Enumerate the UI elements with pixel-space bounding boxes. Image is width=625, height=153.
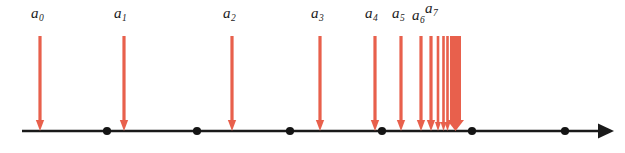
- label-a7-base: a: [425, 0, 433, 16]
- sequence-number-line-figure: a0 a1 a2 a3 a4 a5 a6 a7: [0, 0, 625, 153]
- arrow-head-icon: [435, 122, 441, 131]
- sequence-arrow-a7: [427, 36, 435, 131]
- label-a5: a5: [392, 6, 404, 21]
- label-a2-sub: 2: [231, 13, 236, 23]
- arrow-head-icon: [316, 120, 324, 131]
- label-a1-base: a: [114, 5, 122, 21]
- sequence-arrow-a6: [417, 36, 425, 131]
- axis-tick-dot: [468, 127, 476, 135]
- accumulation-block: [447, 36, 464, 131]
- label-a6: a6: [412, 8, 424, 23]
- label-a7: a7: [425, 1, 437, 16]
- label-a3: a3: [311, 6, 323, 21]
- label-a2-base: a: [223, 5, 231, 21]
- sequence-arrow-a3: [316, 36, 324, 131]
- arrow-head-icon: [397, 120, 405, 131]
- sequence-arrow-unlabeled-2: [445, 36, 451, 131]
- axis-tick-dot: [561, 127, 569, 135]
- axis-tick-dot: [378, 127, 386, 135]
- arrow-head-icon: [427, 120, 435, 131]
- axis-tick-dot: [103, 127, 111, 135]
- label-a7-sub: 7: [433, 8, 438, 18]
- axis-tick-dot: [286, 127, 294, 135]
- sequence-arrow-a1: [120, 36, 128, 131]
- label-a1: a1: [114, 6, 126, 21]
- sequence-arrow-unlabeled-0: [435, 36, 441, 131]
- label-a3-base: a: [311, 5, 319, 21]
- arrow-head-icon: [120, 120, 128, 131]
- axis-arrowhead-icon: [598, 124, 614, 139]
- arrow-head-icon: [228, 120, 236, 131]
- arrow-head-icon: [371, 120, 379, 131]
- arrow-head-icon: [417, 120, 425, 131]
- label-a1-sub: 1: [122, 13, 127, 23]
- label-a6-sub: 6: [420, 15, 425, 25]
- sequence-arrow-a5: [397, 36, 405, 131]
- axis-tick-dot: [193, 127, 201, 135]
- number-line-canvas: [0, 0, 625, 153]
- label-a4-sub: 4: [373, 13, 378, 23]
- label-a0-base: a: [31, 5, 39, 21]
- accumulation-block-head-icon: [447, 120, 464, 131]
- label-a6-base: a: [412, 7, 420, 23]
- label-a3-sub: 3: [319, 13, 324, 23]
- label-a5-sub: 5: [400, 13, 405, 23]
- arrow-head-icon: [36, 120, 44, 131]
- accumulation-block-body: [450, 36, 461, 121]
- label-a0-sub: 0: [39, 13, 44, 23]
- sequence-arrows-group: [36, 36, 464, 131]
- label-a4: a4: [365, 6, 377, 21]
- label-a2: a2: [223, 6, 235, 21]
- sequence-arrow-unlabeled-1: [441, 36, 447, 131]
- sequence-arrow-a4: [371, 36, 379, 131]
- label-a4-base: a: [365, 5, 373, 21]
- label-a5-base: a: [392, 5, 400, 21]
- sequence-arrow-a0: [36, 36, 44, 131]
- sequence-arrow-a2: [228, 36, 236, 131]
- label-a0: a0: [31, 6, 43, 21]
